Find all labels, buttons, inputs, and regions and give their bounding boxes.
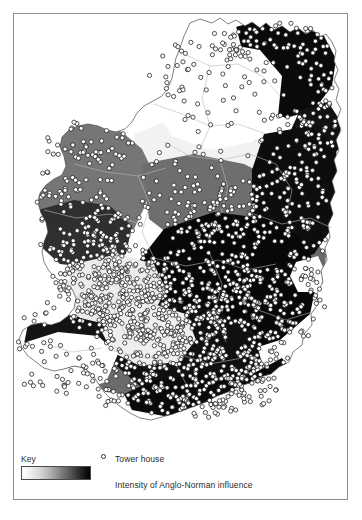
legend-key-label: Key [21,454,36,464]
legend-intensity-label: Intensity of Anglo-Norman influence [115,480,253,490]
tower-house-circle-icon [101,454,106,459]
figure-container: Key Tower house Intensity of Anglo-Norma… [0,0,362,520]
map-canvas [14,14,347,434]
intensity-gradient-bar [21,466,91,480]
legend-tower-house-label: Tower house [115,454,164,464]
map-legend: Key Tower house Intensity of Anglo-Norma… [14,440,347,499]
ireland-choropleth-map [14,14,347,434]
